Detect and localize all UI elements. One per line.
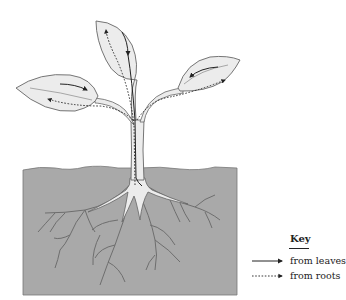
left-leaf bbox=[16, 75, 134, 125]
key-arrows bbox=[252, 261, 282, 276]
key-underline bbox=[289, 248, 309, 249]
stem bbox=[131, 120, 144, 180]
key-label-from-roots: from roots bbox=[290, 270, 340, 281]
key-title: Key bbox=[290, 233, 311, 244]
key-label-from-leaves: from leaves bbox=[290, 255, 346, 266]
right-leaf bbox=[140, 56, 240, 122]
